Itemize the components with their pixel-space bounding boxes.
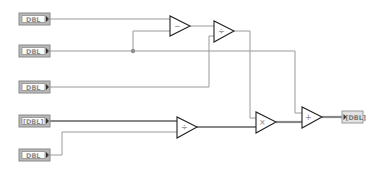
- node-multiply[interactable]: ×: [256, 112, 276, 133]
- control-ctl3[interactable]: DBL: [19, 81, 50, 93]
- control-label: [DBL]: [23, 118, 43, 126]
- wire-ctl2-add[interactable]: [50, 51, 302, 113]
- indicator-ind1-array[interactable]: [DBL]: [342, 111, 366, 123]
- control-ctl4-array[interactable]: [DBL]: [19, 115, 50, 127]
- divide-icon: ÷: [218, 27, 225, 36]
- node-divide-bottom[interactable]: ÷: [177, 117, 197, 138]
- wire-divide-multiply[interactable]: [234, 31, 256, 118]
- wire-junction: [131, 49, 135, 53]
- indicator-label: [DBL]: [346, 114, 366, 122]
- multiply-icon: ×: [259, 118, 266, 127]
- control-label: DBL: [26, 152, 41, 160]
- control-label: DBL: [26, 48, 41, 56]
- wire-ctl5-divide[interactable]: [50, 132, 177, 155]
- subtract-icon: −: [174, 22, 181, 31]
- control-ctl2[interactable]: DBL: [19, 45, 50, 57]
- control-label: DBL: [26, 16, 41, 24]
- control-ctl1[interactable]: DBL: [19, 13, 50, 25]
- node-add[interactable]: +: [302, 107, 322, 128]
- divide-icon: ÷: [181, 123, 188, 132]
- node-divide-top[interactable]: ÷: [214, 21, 234, 42]
- block-diagram: DBL DBL DBL [DBL] DBL − ÷ ÷: [0, 0, 388, 178]
- control-label: DBL: [26, 84, 41, 92]
- node-subtract[interactable]: −: [170, 16, 190, 36]
- add-icon: +: [305, 113, 312, 122]
- wire-ctl3-divide[interactable]: [50, 36, 214, 87]
- control-ctl5[interactable]: DBL: [19, 149, 50, 161]
- wire-ctl2-subtract[interactable]: [133, 31, 170, 51]
